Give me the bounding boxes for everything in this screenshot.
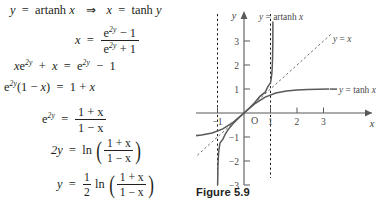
fraction-numerator: 1 — [83, 171, 91, 184]
curve-label-artanh-eq: = — [263, 12, 273, 22]
equals-sign: = — [84, 34, 97, 46]
curve-label-artanh-name: artanh — [273, 12, 297, 22]
fraction-exp-ratio: e2y−1 e2y+1 — [101, 26, 138, 57]
y-tick-label-3: 3 — [234, 36, 239, 47]
curve-y-equals-x — [196, 34, 331, 174]
implies-arrow: ⇒ — [86, 3, 96, 17]
fraction-numerator: e2y−1 — [101, 26, 138, 40]
var-x: x — [69, 3, 75, 17]
curve-label-tanh-name: tanh — [353, 85, 369, 95]
equation-line-1: y = artanhx ⇒ x = tanhy — [10, 4, 162, 16]
var-y: y — [156, 3, 162, 17]
ln-operator: ln — [95, 177, 105, 191]
fraction-denominator: 1 − x — [104, 152, 133, 165]
y-tick-label-2: 2 — [234, 60, 239, 71]
plus-sign: + — [39, 59, 46, 73]
number-one: 1 — [21, 80, 27, 94]
plus-sign: + — [79, 80, 86, 94]
equation-line-5: e2y = 1 + x 1 − x — [42, 105, 107, 136]
x-axis-ticks — [196, 108, 324, 114]
fraction-one-plus-x-over-one-minus-x: 1 + x 1 − x — [75, 105, 106, 136]
var-x: x — [75, 33, 81, 47]
fraction-denominator: e2y+1 — [101, 42, 138, 56]
fraction-one-plus-x-over-one-minus-x: 1 + x 1 − x — [117, 171, 146, 200]
figure-caption: Figure 5.9 — [196, 186, 250, 198]
equation-line-4: e2y(1−x) = 1+x — [4, 81, 95, 93]
var-x: x — [52, 59, 58, 73]
paren-close-large: ) — [149, 177, 155, 193]
paren-open-large: ( — [96, 143, 102, 159]
paren-close-large: ) — [136, 143, 142, 159]
curve-label-artanh-arg: x — [297, 12, 304, 22]
fraction-one-half: 1 2 — [83, 171, 91, 200]
x-axis-label: x — [369, 118, 375, 129]
number-one: 1 — [70, 80, 76, 94]
x-axis-arrowhead — [365, 110, 372, 117]
artanh-operator: artanh — [35, 3, 66, 17]
fraction-numerator: 1 + x — [104, 137, 133, 150]
x-tick-label-1: 1 — [268, 116, 273, 127]
fraction-numerator: 1 + x — [117, 171, 146, 184]
equals-sign: = — [61, 60, 74, 72]
fraction-one-plus-x-over-one-minus-x: 1 + x 1 − x — [104, 137, 133, 166]
x-tick-label-3: 3 — [321, 116, 326, 127]
x-tick-label-neg1: −1 — [212, 116, 222, 127]
y-tick-label-1: 1 — [234, 84, 239, 95]
curve-label-tanh: y = tanh x — [338, 85, 377, 95]
minus-sign: − — [30, 80, 37, 94]
ln-operator: ln — [82, 143, 92, 157]
curve-label-identity-arg: x — [346, 34, 352, 44]
y-tick-label-neg1: −1 — [229, 132, 239, 143]
tanh-operator: tanh — [131, 3, 152, 17]
equation-line-2: x = e2y−1 e2y+1 — [75, 26, 140, 57]
fraction-denominator: 1 − x — [75, 121, 106, 135]
fraction-numerator: 1 + x — [75, 105, 106, 119]
equals-sign: = — [53, 81, 66, 93]
minus-sign: − — [96, 59, 103, 73]
fraction-denominator: 1 − x — [117, 186, 146, 199]
var-x: x — [89, 80, 95, 94]
var-y: y — [10, 3, 16, 17]
curve-label-tanh-arg: x — [369, 85, 376, 95]
y-tick-label-neg2: −2 — [229, 156, 239, 167]
origin-label: O — [251, 115, 258, 126]
y-axis-arrowhead — [241, 11, 248, 19]
equation-line-6: 2y = ln( 1 + x 1 − x ) — [51, 137, 143, 166]
y-axis-label: y — [231, 10, 237, 21]
equation-line-3: xe2y + x = e2y − 1 — [14, 60, 116, 72]
equals-sign: = — [66, 178, 79, 190]
equals-sign: = — [58, 113, 71, 125]
derivation-column: y = artanhx ⇒ x = tanhy x = e2y−1 e2y+1 … — [0, 0, 196, 208]
equals-sign: = — [115, 4, 128, 16]
var-x: x — [106, 3, 112, 17]
paren-close: ) — [46, 80, 50, 94]
curve-label-artanh: y = artanh x — [258, 12, 304, 22]
curve-y-equals-artanh-x — [218, 22, 273, 185]
equals-sign: = — [66, 144, 79, 156]
number-one: 1 — [110, 59, 116, 73]
var-y: y — [57, 177, 63, 191]
figure-panel: x y O −3 −2 −1 1 2 3 3 2 1 −1 −2 −3 y = … — [196, 0, 389, 208]
curve-label-identity: y = x — [332, 34, 352, 44]
fraction-denominator: 2 — [83, 186, 91, 199]
function-graph: x y O −3 −2 −1 1 2 3 3 2 1 −1 −2 −3 y = … — [196, 0, 389, 190]
equals-sign: = — [19, 4, 32, 16]
x-tick-label-2: 2 — [295, 116, 300, 127]
term-two-y: 2y — [51, 143, 63, 157]
paren-open-large: ( — [109, 177, 115, 193]
curve-label-tanh-eq: = — [343, 85, 353, 95]
curve-label-identity-eq: = — [337, 34, 347, 44]
equation-line-7: y = 1 2 ln( 1 + x 1 − x ) — [57, 171, 156, 200]
